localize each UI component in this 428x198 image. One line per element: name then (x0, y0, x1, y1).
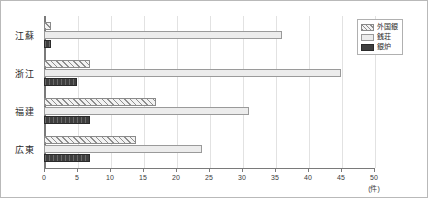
gridline-45 (342, 16, 343, 168)
bar-福建-銭荘 (44, 107, 249, 115)
x-tick-mark-5 (77, 168, 78, 172)
legend-swatch-foreign-bank-icon (361, 24, 374, 31)
x-tick-label-40: 40 (304, 174, 312, 181)
bar-広東-外国銀 (44, 136, 136, 144)
x-tick-mark-10 (110, 168, 111, 172)
legend-item-foreign-bank: 外国銀 (361, 23, 398, 31)
bar-福建-外国銀 (44, 98, 156, 106)
bar-福建-銀炉 (44, 116, 90, 124)
x-tick-label-5: 5 (75, 174, 79, 181)
bar-江蘇-銀炉 (44, 40, 51, 48)
x-tick-label-15: 15 (139, 174, 147, 181)
legend-label-foreign-bank: 外国銀 (377, 23, 398, 31)
category-label-2: 福建 (9, 105, 41, 118)
chart-legend: 外国銀 銭荘 銀炉 (357, 19, 403, 55)
legend-swatch-qianzhuang-icon (361, 34, 374, 41)
x-tick-mark-45 (341, 168, 342, 172)
legend-swatch-yinlu-icon (361, 44, 374, 51)
x-tick-label-45: 45 (337, 174, 345, 181)
x-tick-mark-0 (44, 168, 45, 172)
x-tick-label-30: 30 (238, 174, 246, 181)
category-label-3: 広東 (9, 143, 41, 156)
category-label-0: 江蘇 (9, 29, 41, 42)
bar-広東-銭荘 (44, 145, 202, 153)
x-tick-mark-35 (275, 168, 276, 172)
x-tick-label-0: 0 (42, 174, 46, 181)
bar-浙江-銭荘 (44, 69, 341, 77)
x-tick-label-50: 50 (370, 174, 378, 181)
bar-浙江-外国銀 (44, 60, 90, 68)
x-tick-label-10: 10 (106, 174, 114, 181)
bar-広東-銀炉 (44, 154, 90, 162)
x-tick-label-35: 35 (271, 174, 279, 181)
x-tick-label-25: 25 (205, 174, 213, 181)
x-tick-mark-25 (209, 168, 210, 172)
category-label-1: 浙江 (9, 67, 41, 80)
legend-label-yinlu: 銀炉 (377, 43, 391, 51)
bar-江蘇-外国銀 (44, 22, 51, 30)
x-axis-unit-label: (件) (368, 183, 380, 193)
x-tick-mark-20 (176, 168, 177, 172)
x-tick-mark-50 (374, 168, 375, 172)
bar-江蘇-銭荘 (44, 31, 282, 39)
bar-浙江-銀炉 (44, 78, 77, 86)
x-tick-mark-40 (308, 168, 309, 172)
gridline-40 (309, 16, 310, 168)
x-tick-mark-30 (242, 168, 243, 172)
x-tick-label-20: 20 (172, 174, 180, 181)
chart-figure: (件) 外国銀 銭荘 銀炉 05101520253035404550江蘇浙江福建… (0, 0, 428, 198)
x-tick-mark-15 (143, 168, 144, 172)
legend-item-yinlu: 銀炉 (361, 43, 398, 51)
legend-item-qianzhuang: 銭荘 (361, 33, 398, 41)
legend-label-qianzhuang: 銭荘 (377, 33, 391, 41)
